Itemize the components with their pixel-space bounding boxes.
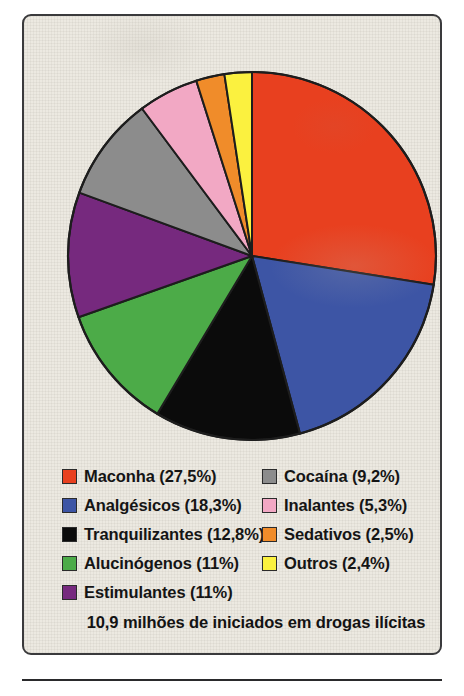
legend-item-estimulantes[interactable]: Estimulantes (11%) xyxy=(62,578,262,607)
legend-label-inalantes: Inalantes (5,3%) xyxy=(284,496,407,515)
chart-legend: Maconha (27,5%) Analgésicos (18,3%) Tran… xyxy=(62,462,442,607)
legend-item-tranquilizantes[interactable]: Tranquilizantes (12,8%) xyxy=(62,520,262,549)
pie-chart-area xyxy=(24,16,442,466)
legend-swatch-analgesicos xyxy=(62,498,77,513)
pie-slice-group xyxy=(68,72,436,440)
pie-chart-svg xyxy=(24,16,442,466)
legend-item-sedativos[interactable]: Sedativos (2,5%) xyxy=(262,520,442,549)
legend-item-maconha[interactable]: Maconha (27,5%) xyxy=(62,462,262,491)
legend-column-right: Cocaína (9,2%) Inalantes (5,3%) Sedativo… xyxy=(262,462,442,607)
legend-swatch-tranquilizantes xyxy=(62,527,77,542)
pie-slice-maconha[interactable] xyxy=(252,72,436,285)
legend-item-cocaina[interactable]: Cocaína (9,2%) xyxy=(262,462,442,491)
legend-label-estimulantes: Estimulantes (11%) xyxy=(84,583,233,602)
legend-swatch-alucinogenos xyxy=(62,556,77,571)
legend-swatch-maconha xyxy=(62,469,77,484)
chart-panel: Maconha (27,5%) Analgésicos (18,3%) Tran… xyxy=(22,14,442,655)
legend-label-outros: Outros (2,4%) xyxy=(284,554,390,573)
legend-swatch-outros xyxy=(262,556,277,571)
pie-chart-figure: Maconha (27,5%) Analgésicos (18,3%) Tran… xyxy=(0,0,464,696)
legend-swatch-inalantes xyxy=(262,498,277,513)
legend-swatch-cocaina xyxy=(262,469,277,484)
legend-label-alucinogenos: Alucinógenos (11%) xyxy=(84,554,239,573)
legend-column-left: Maconha (27,5%) Analgésicos (18,3%) Tran… xyxy=(62,462,262,607)
legend-item-inalantes[interactable]: Inalantes (5,3%) xyxy=(262,491,442,520)
legend-label-tranquilizantes: Tranquilizantes (12,8%) xyxy=(84,525,264,544)
legend-label-maconha: Maconha (27,5%) xyxy=(84,467,216,486)
legend-label-analgesicos: Analgésicos (18,3%) xyxy=(84,496,242,515)
legend-label-cocaina: Cocaína (9,2%) xyxy=(284,467,400,486)
chart-caption: 10,9 milhões de iniciados em drogas ilíc… xyxy=(24,613,442,632)
legend-item-analgesicos[interactable]: Analgésicos (18,3%) xyxy=(62,491,262,520)
legend-item-alucinogenos[interactable]: Alucinógenos (11%) xyxy=(62,549,262,578)
bottom-divider xyxy=(22,679,442,681)
legend-label-sedativos: Sedativos (2,5%) xyxy=(284,525,414,544)
legend-swatch-estimulantes xyxy=(62,585,77,600)
legend-swatch-sedativos xyxy=(262,527,277,542)
legend-item-outros[interactable]: Outros (2,4%) xyxy=(262,549,442,578)
